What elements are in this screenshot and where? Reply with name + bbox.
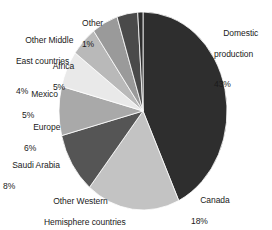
slice-label-africa-text: Africa bbox=[53, 61, 74, 71]
pie-chart: Other 1% Other Middle East countries 4% … bbox=[0, 0, 272, 230]
slice-label-canada-pct: 18% bbox=[191, 216, 245, 226]
slice-label-other-western-hemisphere: Other Western Hemisphere countries 10% bbox=[44, 186, 152, 230]
slice-label-domestic-production-line2: production bbox=[214, 49, 272, 59]
slice-label-domestic-production: Domestic production 43% bbox=[214, 18, 272, 110]
slice-label-other-western-hemisphere-line2: Hemisphere countries bbox=[44, 217, 152, 227]
slice-label-domestic-production-pct: 43% bbox=[214, 79, 272, 89]
slice-label-canada: Canada 18% bbox=[191, 185, 245, 230]
slice-label-europe-text: Europe bbox=[33, 122, 60, 132]
slice-label-canada-text: Canada bbox=[200, 195, 229, 205]
slice-label-other-western-hemisphere-line1: Other Western bbox=[53, 196, 107, 206]
slice-label-other-middle-east-line1: Other Middle bbox=[25, 35, 73, 45]
slice-label-domestic-production-line1: Domestic bbox=[223, 28, 258, 38]
slice-label-mexico-text: Mexico bbox=[31, 89, 58, 99]
slice-label-saudi-arabia-text: Saudi Arabia bbox=[12, 160, 60, 170]
